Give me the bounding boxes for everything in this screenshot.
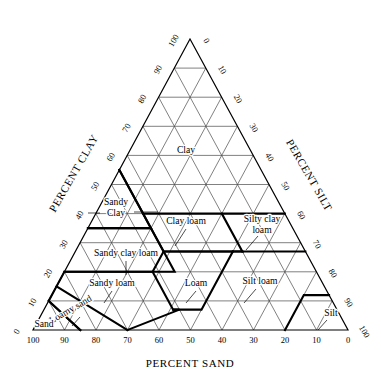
class-boundaries [49,170,329,330]
tick-silt-90: 90 [342,296,355,308]
tick-clay-90: 90 [151,63,164,75]
class-label-clay: Clay [177,144,195,155]
tick-clay-10: 10 [26,296,39,308]
axis-title-silt: PERCENT SILT [284,137,335,213]
tick-clay-50: 50 [88,180,101,192]
class-boundary-7 [128,310,180,330]
tick-clay-30: 30 [57,238,70,250]
class-label-sandy-clay-loam: Sandy clay loam [94,247,158,258]
tick-sand-100: 100 [27,335,40,345]
tick-silt-60: 60 [295,209,308,221]
tick-silt-10: 10 [216,63,229,75]
tick-silt-40: 40 [263,151,276,163]
ternary-diagram-svg: 1009080706050403020100010203040506070809… [0,0,381,379]
axis-title-clay: PERCENT CLAY [46,132,100,214]
class-label-silt: Silt [324,307,338,318]
grid-line-sand-30 [143,126,254,330]
tick-clay-0: 0 [11,327,22,336]
tick-silt-70: 70 [311,238,324,250]
tick-clay-70: 70 [120,122,133,134]
soil-texture-triangle: 1009080706050403020100010203040506070809… [0,0,381,379]
tick-sand-70: 70 [123,335,132,345]
tick-clay-100: 100 [166,32,181,48]
tick-sand-30: 30 [249,335,258,345]
class-label-silt-loam: Silt loam [243,275,278,286]
class-label-clay-loam: Clay loam [166,215,206,226]
tick-sand-90: 90 [60,335,69,345]
tick-clay-20: 20 [41,267,54,279]
tick-silt-50: 50 [279,180,292,192]
class-label-sandy-clay: SandyClay [104,196,128,218]
grid-line-silt-70 [254,243,301,330]
tick-silt-0: 0 [201,36,212,45]
axis-title-sand: PERCENT SAND [146,357,235,369]
class-label-sand: Sand [34,318,53,329]
tick-sand-40: 40 [218,335,227,345]
tick-silt-100: 100 [357,323,372,339]
tick-sand-80: 80 [92,335,101,345]
tick-clay-40: 40 [73,209,86,221]
leader-loamy-sand-0 [72,317,80,326]
tick-silt-30: 30 [248,122,261,134]
class-label-sandy-loam: Sandy loam [89,277,135,288]
tick-sand-50: 50 [186,335,195,345]
tick-sand-10: 10 [312,335,321,345]
grid-line-sand-10 [174,68,316,330]
tick-clay-80: 80 [136,93,149,105]
class-label-loam: Loam [185,277,208,288]
grid-lines-layer [49,68,333,330]
tick-sand-0: 0 [346,335,350,345]
tick-silt-20: 20 [232,93,245,105]
tick-sand-20: 20 [281,335,290,345]
tick-sand-60: 60 [155,335,164,345]
tick-clay-60: 60 [104,151,117,163]
tick-silt-80: 80 [327,267,340,279]
